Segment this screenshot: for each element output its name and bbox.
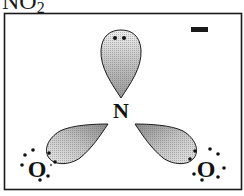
electron-dot	[23, 153, 27, 157]
electron-dot	[113, 36, 117, 40]
right-oxygen-label: O	[197, 156, 216, 182]
electron-dot	[216, 152, 220, 156]
right-oxygen-atom: O	[192, 147, 226, 182]
electron-dot	[20, 163, 24, 167]
no2-diagram-figure: NO2	[0, 0, 244, 196]
electron-dot	[208, 147, 212, 151]
electron-dot	[46, 174, 50, 178]
right-bonding-lobe	[135, 124, 197, 164]
electron-dot	[193, 149, 197, 153]
electron-dot	[222, 166, 226, 170]
electron-dot	[50, 164, 52, 166]
electron-dot	[122, 36, 126, 40]
negative-charge-sign	[191, 27, 208, 32]
electron-dot	[38, 178, 42, 182]
left-bonding-lobe	[46, 124, 108, 164]
electron-dot	[200, 178, 204, 182]
electron-dot	[47, 151, 51, 155]
nitrogen-atom-label: N	[113, 98, 129, 123]
orbital-diagram: N O O −	[0, 0, 244, 196]
left-oxygen-label: O	[28, 156, 47, 182]
electron-dot	[192, 172, 196, 176]
electron-dot	[188, 157, 192, 161]
electron-dot	[53, 160, 57, 164]
top-lone-pair-lobe	[101, 30, 141, 98]
electron-dot	[31, 148, 35, 152]
electron-dot	[216, 175, 220, 179]
